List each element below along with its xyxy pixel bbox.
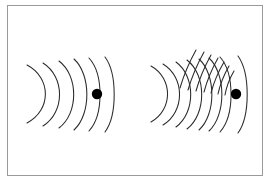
source-dot-stationary xyxy=(92,89,102,99)
doppler-wavefront-figure xyxy=(0,0,272,186)
wavefront-arc xyxy=(187,60,202,129)
wavefront-arc xyxy=(199,59,212,130)
panel-stationary-source xyxy=(27,57,114,132)
wavefront-diagram-canvas xyxy=(0,0,272,186)
wavefront-arc xyxy=(105,57,114,132)
wavefront-arc xyxy=(74,59,87,130)
wavefront-arc xyxy=(176,62,191,127)
shock-fan-line xyxy=(196,55,211,91)
shock-fan-lines xyxy=(180,50,234,95)
wavefront-arc xyxy=(59,61,74,128)
wavefront-arc xyxy=(27,65,45,123)
panel-moving-source xyxy=(151,50,247,133)
source-dot-moving xyxy=(231,89,241,99)
wavefront-arc xyxy=(151,66,168,122)
wavefront-arc xyxy=(163,64,180,125)
